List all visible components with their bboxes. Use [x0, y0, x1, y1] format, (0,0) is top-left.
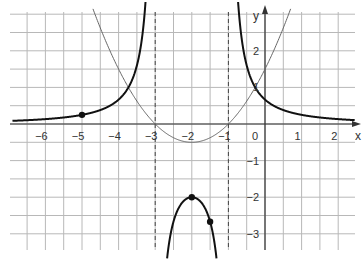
- x-tick-label: 1: [295, 130, 301, 142]
- y-axis-arrow-icon: [262, 5, 268, 14]
- data-point: [207, 219, 213, 225]
- y-axis-label: y: [253, 9, 259, 23]
- x-tick-label: −5: [72, 130, 85, 142]
- x-axis-arrow-icon: [352, 121, 361, 127]
- y-tick-label: 1: [253, 81, 259, 93]
- x-tick-label: −2: [182, 130, 195, 142]
- marked-points: [79, 112, 214, 225]
- data-point: [189, 194, 195, 200]
- x-tick-label: 2: [331, 130, 337, 142]
- y-tick-label: −3: [246, 228, 259, 240]
- x-tick-label: −1: [218, 130, 231, 142]
- y-tick-label: −2: [246, 191, 259, 203]
- x-tick-label: 0: [252, 130, 258, 142]
- y-tick-label: −1: [246, 155, 259, 167]
- function-graph: −6−5−4−3−2−1012−3−2−112xy: [0, 0, 363, 259]
- x-tick-label: −4: [108, 130, 121, 142]
- axes: [10, 5, 361, 250]
- y-tick-label: 2: [253, 45, 259, 57]
- x-axis-label: x: [355, 129, 361, 143]
- plot-canvas: −6−5−4−3−2−1012−3−2−112xy: [0, 0, 363, 259]
- data-point: [79, 112, 85, 118]
- reciprocal-curve-left: [12, 2, 145, 121]
- x-tick-label: −3: [145, 130, 158, 142]
- x-tick-label: −6: [35, 130, 48, 142]
